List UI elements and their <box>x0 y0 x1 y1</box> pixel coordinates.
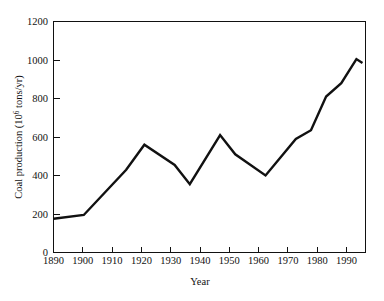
x-axis-title: Year <box>190 276 210 287</box>
x-tick-labels: 1890 1900 1910 1920 1930 1940 1950 1960 … <box>43 255 357 266</box>
x-tick-label: 1920 <box>131 255 152 266</box>
x-tick-label: 1990 <box>336 255 357 266</box>
x-tick-label: 1960 <box>248 255 269 266</box>
y-tick-label: 600 <box>32 132 48 143</box>
svg-text:Coal production (106 tons/yr): Coal production (106 tons/yr) <box>13 75 26 199</box>
y-tick-label: 800 <box>32 93 48 104</box>
x-tick-label: 1930 <box>160 255 181 266</box>
coal-production-chart: 0 200 400 600 800 1000 1200 1890 1900 19… <box>0 0 384 301</box>
y-axis-title-prefix: Coal production (10 <box>13 114 25 199</box>
x-tick-label: 1980 <box>307 255 328 266</box>
y-tick-label: 1200 <box>27 16 48 27</box>
x-tick-label: 1910 <box>102 255 123 266</box>
x-tick-label: 1950 <box>219 255 240 266</box>
coal-production-line <box>54 59 363 219</box>
y-tick-label: 1000 <box>27 55 48 66</box>
y-tick-label: 400 <box>32 170 48 181</box>
x-tick-label: 1890 <box>43 255 64 266</box>
y-axis-title: Coal production (106 tons/yr) <box>13 75 26 199</box>
y-tick-labels: 0 200 400 600 800 1000 1200 <box>27 16 48 258</box>
y-tick-label: 200 <box>32 209 48 220</box>
x-tick-label: 1900 <box>72 255 93 266</box>
x-tick-label: 1970 <box>277 255 298 266</box>
y-axis-title-suffix: tons/yr) <box>13 75 25 111</box>
x-tick-marks <box>54 247 347 253</box>
plot-frame <box>54 22 366 253</box>
x-tick-label: 1940 <box>190 255 211 266</box>
chart-canvas: 0 200 400 600 800 1000 1200 1890 1900 19… <box>0 0 384 301</box>
